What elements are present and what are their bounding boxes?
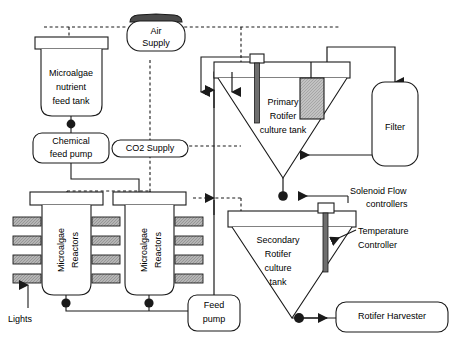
- primary-tank-label-line3: culture tank: [260, 125, 307, 135]
- primary-to-secondary-line: [278, 178, 288, 201]
- air-supply-label-line1: Air: [151, 26, 162, 36]
- co2-supply-label: CO2 Supply: [126, 143, 175, 153]
- chemical-pump-outlet: [71, 163, 139, 192]
- secondary-to-harvester-line: [292, 313, 336, 323]
- primary-tank-label-line2: Rotifer: [270, 111, 297, 121]
- secondary-tank-label-line2: Rotifer: [265, 249, 292, 259]
- nutrient-tank-label-line2: nutrient: [56, 82, 87, 92]
- reactor-left-lid: [30, 192, 103, 205]
- valve-node-reactor-right: [144, 298, 153, 307]
- reactor-right-label-line2: Reactors: [153, 231, 163, 268]
- feed-pump-label-line2: pump: [203, 314, 226, 324]
- solenoid-controllers-label-line1: Solenoid Flow: [350, 186, 407, 196]
- probe-head: [250, 54, 264, 63]
- solenoid-pointer: [299, 196, 348, 203]
- light-tube: [13, 255, 41, 264]
- light-tube: [175, 255, 203, 264]
- process-flow-diagram: Air Supply CO2 Supply Microalgae nutrien…: [0, 0, 461, 353]
- reactor-left-label-line2: Reactors: [70, 231, 80, 268]
- reactor-left-label-line1: Microalgae: [56, 228, 66, 272]
- valve-node-nutrient: [67, 120, 76, 129]
- nutrient-tank-label-line3: feed tank: [52, 96, 90, 106]
- filter-label: Filter: [385, 122, 405, 132]
- primary-tank-label-line1: Primary: [268, 97, 299, 107]
- temperature-controller-label-line1: Temperature: [358, 226, 409, 236]
- light-bank-right-reactor-outer: [175, 217, 203, 283]
- primary-tank-rim: [214, 62, 350, 78]
- light-tube: [92, 255, 120, 264]
- temperature-controller-label-line2: Controller: [358, 240, 397, 250]
- light-tube: [92, 236, 120, 245]
- nutrient-tank-outlet: [67, 116, 76, 134]
- probe-stem: [323, 213, 328, 272]
- reactor-outlet-manifold: [61, 295, 188, 311]
- probe-head: [318, 203, 334, 213]
- reactor-right-label-line1: Microalgae: [139, 228, 149, 272]
- valve-node-harvest: [294, 313, 304, 323]
- lights-label: Lights: [8, 314, 33, 324]
- valve-node-primary-outlet: [278, 191, 288, 201]
- reactor-left-body: [42, 205, 91, 295]
- light-bank-middle: [92, 217, 120, 283]
- chemical-pump-label-line1: Chemical: [52, 136, 90, 146]
- reactor-right-body: [125, 205, 174, 295]
- light-tube: [92, 274, 120, 283]
- heater-element: [300, 78, 324, 119]
- light-tube: [175, 274, 203, 283]
- solenoid-controllers-label-line2: controllers: [366, 199, 408, 209]
- feed-pump-label-line1: Feed: [204, 300, 225, 310]
- secondary-tank-rim: [228, 211, 356, 227]
- light-tube: [175, 217, 203, 226]
- secondary-tank-label-line3: culture: [264, 263, 291, 273]
- reactor-right-lid: [113, 192, 186, 205]
- light-tube: [175, 236, 203, 245]
- air-supply-label-line2: Supply: [142, 38, 170, 48]
- light-tube: [92, 217, 120, 226]
- light-bank-left-reactor-outer: [13, 217, 41, 283]
- chemical-pump-label-line2: feed pump: [50, 149, 93, 159]
- light-tube: [13, 217, 41, 226]
- light-tube: [13, 236, 41, 245]
- valve-node-reactor-left: [61, 298, 70, 307]
- node-secondary-rotifer-tank[interactable]: [228, 211, 356, 318]
- light-tube: [13, 274, 41, 283]
- probe-stem: [255, 63, 260, 123]
- feed-riser-line: [214, 72, 232, 295]
- flow-diagram-canvas: Air Supply CO2 Supply Microalgae nutrien…: [0, 0, 461, 353]
- nutrient-tank-lid: [35, 37, 108, 49]
- secondary-tank-label-line4: tank: [269, 277, 287, 287]
- nutrient-tank-label-line1: Microalgae: [49, 68, 93, 78]
- secondary-tank-label-line1: Secondary: [256, 235, 300, 245]
- rotifer-harvester-label: Rotifer Harvester: [358, 311, 426, 321]
